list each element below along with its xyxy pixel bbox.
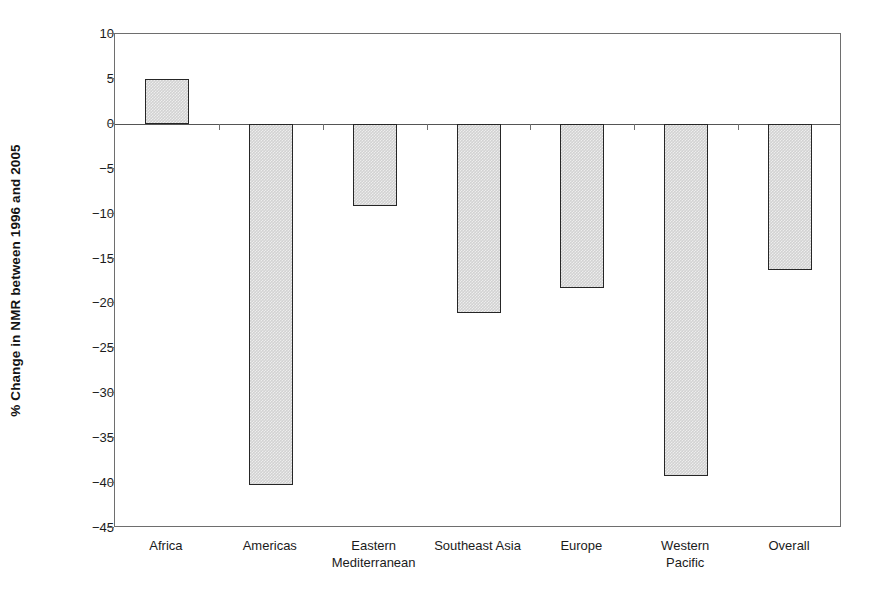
y-tick-mark xyxy=(107,347,114,348)
y-tick-mark xyxy=(107,78,114,79)
y-tick-mark xyxy=(107,258,114,259)
y-tick-mark xyxy=(107,213,114,214)
bar xyxy=(145,79,189,124)
x-category-label: Europe xyxy=(560,537,602,554)
x-tick-mark xyxy=(427,124,428,130)
bar xyxy=(768,124,812,270)
y-tick-mark xyxy=(107,437,114,438)
bar xyxy=(457,124,501,314)
y-tick-mark xyxy=(107,392,114,393)
x-category-label: Eastern Mediterranean xyxy=(332,537,416,571)
x-category-label: Southeast Asia xyxy=(434,537,521,554)
x-tick-mark xyxy=(323,124,324,130)
x-tick-mark xyxy=(219,124,220,130)
bar-chart: % Change in NMR between 1996 and 2005 10… xyxy=(0,0,872,599)
y-tick-mark xyxy=(107,302,114,303)
x-category-label: Americas xyxy=(243,537,297,554)
bar xyxy=(249,124,293,485)
x-tick-mark xyxy=(738,124,739,130)
y-tick-mark xyxy=(107,33,114,34)
x-category-label: Western Pacific xyxy=(661,537,709,571)
bar xyxy=(353,124,397,206)
y-tick-mark xyxy=(107,527,114,528)
bar xyxy=(560,124,604,288)
x-tick-mark xyxy=(634,124,635,130)
plot-area xyxy=(114,33,841,527)
bar xyxy=(664,124,708,476)
x-category-label: Africa xyxy=(149,537,182,554)
y-tick-mark xyxy=(107,482,114,483)
y-tick-mark xyxy=(107,123,114,124)
y-axis-ticks: 1050−5−10−15−20−25−30−35−40−45 xyxy=(0,0,114,599)
x-category-label: Overall xyxy=(768,537,809,554)
x-tick-mark xyxy=(530,124,531,130)
y-tick-mark xyxy=(107,168,114,169)
